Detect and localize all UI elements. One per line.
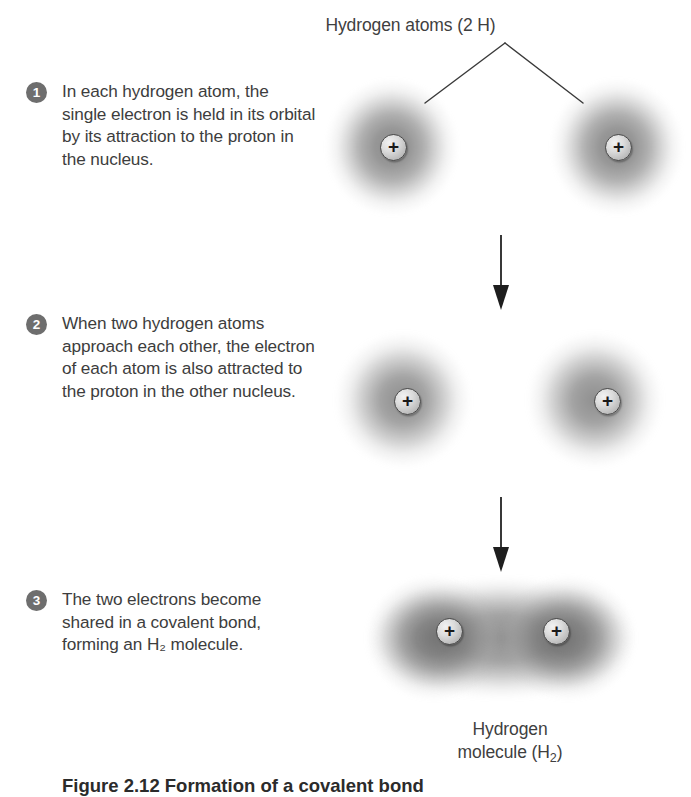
figure-bottom-caption-cropped: Figure 2.12 Formation of a covalent bond bbox=[62, 775, 682, 797]
step-1-block: 1 In each hydrogen atom, the single elec… bbox=[26, 80, 316, 170]
step-3-badge: 3 bbox=[26, 590, 47, 611]
shared-cloud-lobe-left bbox=[366, 576, 502, 700]
proton-molecule-right: + bbox=[543, 618, 570, 645]
figure-title-hydrogen-atoms: Hydrogen atoms (2 H) bbox=[0, 14, 691, 36]
caption-hydrogen-molecule: Hydrogen molecule (H2) bbox=[330, 718, 690, 770]
arrow-head-stage1-to-stage2 bbox=[493, 285, 509, 310]
step-3-text: The two electrons become shared in a cov… bbox=[62, 588, 316, 656]
caption-line-1: Hydrogen bbox=[472, 719, 547, 739]
arrow-head-stage2-to-stage3 bbox=[493, 547, 509, 572]
step-1-text: In each hydrogen atom, the single electr… bbox=[62, 80, 316, 170]
caption-subscript: 2 bbox=[550, 751, 557, 765]
step-2-block: 2 When two hydrogen atoms approach each … bbox=[26, 312, 316, 402]
step-3-block: 3 The two electrons become shared in a c… bbox=[26, 588, 316, 656]
step-2-badge: 2 bbox=[26, 314, 47, 335]
caption-line-2-suffix: ) bbox=[557, 742, 563, 762]
leader-line-right bbox=[505, 43, 583, 103]
step-1-badge: 1 bbox=[26, 82, 47, 103]
leader-line-left bbox=[425, 43, 505, 103]
proton-approaching-right: + bbox=[594, 388, 621, 415]
proton-approaching-left: + bbox=[394, 388, 421, 415]
caption-line-2-prefix: molecule (H bbox=[458, 742, 550, 762]
proton-molecule-left: + bbox=[436, 618, 463, 645]
proton-atom-right: + bbox=[605, 134, 632, 161]
proton-atom-left: + bbox=[380, 134, 407, 161]
step-2-text: When two hydrogen atoms approach each ot… bbox=[62, 312, 316, 402]
